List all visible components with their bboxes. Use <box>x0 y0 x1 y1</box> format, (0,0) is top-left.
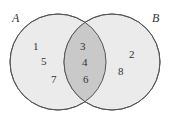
set-a-label: A <box>11 11 20 25</box>
element-a-7: 7 <box>51 73 57 85</box>
venn-diagram: A B 1 5 7 3 4 6 2 8 <box>0 0 175 117</box>
element-a-5: 5 <box>41 55 47 67</box>
element-b-8: 8 <box>118 65 124 77</box>
element-b-2: 2 <box>129 48 135 60</box>
set-b-label: B <box>152 11 160 25</box>
element-ab-6: 6 <box>83 73 89 85</box>
element-ab-4: 4 <box>82 56 88 68</box>
element-a-1: 1 <box>33 40 39 52</box>
element-ab-3: 3 <box>80 40 86 52</box>
